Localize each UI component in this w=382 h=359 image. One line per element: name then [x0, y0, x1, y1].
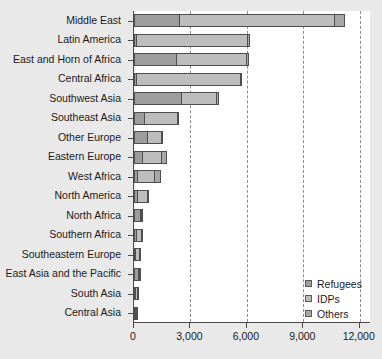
- bar-row: [134, 190, 149, 203]
- bar-segment-others: [216, 92, 220, 105]
- bar-segment-others: [161, 131, 163, 144]
- x-axis-tick-label: 3,000: [176, 330, 202, 342]
- x-axis-tick-labels: 03,0006,0009,00012,000: [0, 330, 382, 346]
- bar-segment-others: [141, 209, 143, 222]
- bar-segment-idps: [136, 34, 248, 47]
- bar-segment-others: [177, 112, 179, 125]
- bar-segment-others: [139, 268, 141, 281]
- legend-label: Others: [317, 308, 349, 320]
- bar-row: [134, 112, 179, 125]
- y-axis-label: North Africa: [0, 210, 129, 221]
- legend-label: IDPs: [317, 293, 340, 305]
- bar-segment-idps: [176, 53, 247, 66]
- y-axis-label: Southern Africa: [0, 229, 129, 240]
- bar-segment-others: [161, 151, 167, 164]
- bar-segment-idps: [136, 73, 240, 86]
- y-axis-label: East and Horn of Africa: [0, 54, 129, 65]
- y-axis-label: South Asia: [0, 288, 129, 299]
- y-axis-label: Southwest Asia: [0, 93, 129, 104]
- bar-row: [134, 131, 163, 144]
- y-axis-label: East Asia and the Pacific: [0, 268, 129, 279]
- bar-segment-idps: [144, 112, 178, 125]
- x-axis-tick-label: 12,000: [343, 330, 375, 342]
- bar-segment-idps: [179, 14, 335, 27]
- chart-legend: RefugeesIDPsOthers: [305, 276, 375, 321]
- bar-segment-others: [147, 190, 149, 203]
- bar-segment-others: [154, 170, 160, 183]
- bar-segment-others: [136, 307, 138, 320]
- bar-row: [134, 209, 143, 222]
- bar-segment-others: [246, 53, 249, 66]
- legend-swatch-idps: [305, 295, 312, 302]
- bar-segment-others: [141, 229, 143, 242]
- y-axis-label: Middle East: [0, 15, 129, 26]
- bar-row: [134, 248, 141, 261]
- bar-segment-refugees: [134, 53, 177, 66]
- y-axis-label: Southeast Asia: [0, 112, 129, 123]
- bar-row: [134, 307, 138, 320]
- x-axis-tick: [133, 323, 134, 328]
- x-axis-tick-label: 6,000: [233, 330, 259, 342]
- y-axis-labels: Middle EastLatin AmericaEast and Horn of…: [0, 11, 129, 323]
- x-axis-tick: [246, 323, 247, 328]
- bar-segment-refugees: [134, 14, 180, 27]
- bar-row: [134, 268, 141, 281]
- bar-row: [134, 14, 345, 27]
- y-axis-label: Central Africa: [0, 73, 129, 84]
- y-axis-label: Latin America: [0, 34, 129, 45]
- y-axis-label: Other Europe: [0, 132, 129, 143]
- bar-segment-idps: [181, 92, 217, 105]
- y-axis-label: Eastern Europe: [0, 151, 129, 162]
- legend-item: Refugees: [305, 276, 375, 291]
- bar-segment-idps: [142, 151, 162, 164]
- y-axis-label: West Africa: [0, 171, 129, 182]
- x-axis-tick: [189, 323, 190, 328]
- legend-item: IDPs: [305, 291, 375, 306]
- bar-segment-others: [137, 287, 139, 300]
- x-axis-tick: [302, 323, 303, 328]
- bar-row: [134, 53, 249, 66]
- y-axis-label: North America: [0, 190, 129, 201]
- bar-row: [134, 92, 219, 105]
- y-axis-label: Southeastern Europe: [0, 249, 129, 260]
- x-axis-tick-label: 0: [130, 330, 136, 342]
- stacked-bar-chart: Middle EastLatin AmericaEast and Horn of…: [0, 0, 382, 359]
- x-axis-ticks: [133, 323, 370, 329]
- bar-row: [134, 287, 139, 300]
- legend-swatch-others: [305, 310, 312, 317]
- bar-row: [134, 170, 161, 183]
- bar-row: [134, 151, 167, 164]
- bar-segment-idps: [147, 131, 162, 144]
- bar-row: [134, 73, 242, 86]
- y-axis-label: Central Asia: [0, 307, 129, 318]
- bar-segment-refugees: [134, 92, 182, 105]
- bar-segment-others: [334, 14, 345, 27]
- legend-swatch-refugees: [305, 280, 312, 287]
- x-axis-tick-label: 9,000: [289, 330, 315, 342]
- bar-segment-others: [139, 248, 141, 261]
- bar-segment-refugees: [134, 131, 148, 144]
- bar-segment-idps: [137, 170, 155, 183]
- bar-segment-others: [240, 73, 242, 86]
- x-axis-tick: [359, 323, 360, 328]
- bar-row: [134, 34, 250, 47]
- bar-row: [134, 229, 143, 242]
- bar-segment-others: [247, 34, 250, 47]
- legend-item: Others: [305, 306, 375, 321]
- legend-label: Refugees: [317, 278, 362, 290]
